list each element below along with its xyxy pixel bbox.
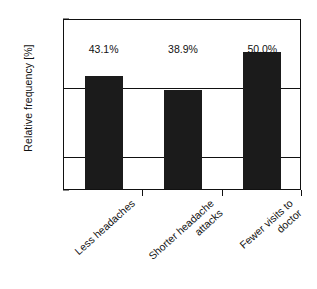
bar-chart-figure: Relative frequency [%] 10204060 43.1%38.… bbox=[0, 0, 317, 289]
x-tick-mark bbox=[222, 190, 223, 196]
bar bbox=[164, 90, 202, 189]
x-tick-mark bbox=[301, 190, 302, 196]
x-tick-mark bbox=[142, 190, 143, 196]
bar bbox=[243, 52, 281, 189]
cropped-caption-strip bbox=[0, 283, 317, 289]
bar-value-label: 43.1% bbox=[89, 43, 119, 55]
y-axis-title: Relative frequency [%] bbox=[22, 8, 34, 188]
plot-area: 43.1%38.9%50.0% bbox=[63, 19, 301, 190]
bar bbox=[85, 76, 123, 189]
bar-value-label: 38.9% bbox=[168, 43, 198, 55]
bar-value-label: 50.0% bbox=[247, 43, 277, 55]
